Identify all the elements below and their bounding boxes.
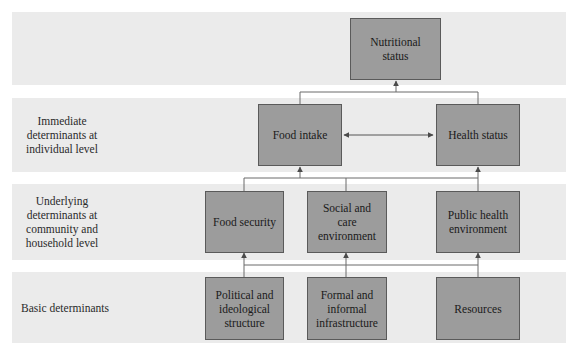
node-political-ideological-structure: Political and ideological structure: [205, 277, 284, 340]
node-public-health-environment: Public health environment: [436, 191, 520, 253]
node-nutritional-status: Nutritional status: [350, 18, 441, 80]
node-food-intake: Food intake: [258, 104, 342, 166]
node-health-status: Health status: [436, 104, 520, 166]
node-food-security: Food security: [205, 191, 284, 253]
node-resources: Resources: [436, 277, 520, 340]
node-social-care-environment: Social and care environment: [307, 191, 387, 253]
node-formal-informal-infrastructure: Formal and informal infrastructure: [307, 277, 387, 340]
